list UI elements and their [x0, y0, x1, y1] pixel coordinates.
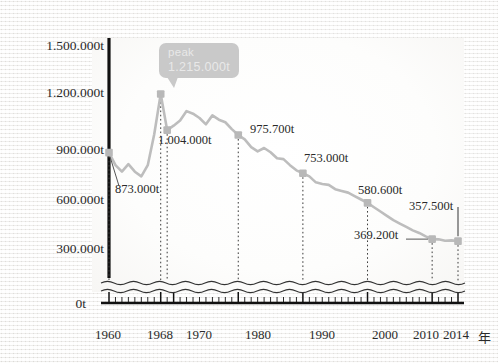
axis-break-wave-lower: [101, 289, 465, 292]
x-tick-label-1968: 1968: [147, 327, 173, 343]
data-marker-1968[interactable]: [157, 90, 165, 98]
axis-break-wave-upper: [101, 281, 465, 284]
peak-tooltip-label: peak: [168, 46, 230, 60]
x-tick-label-1970: 1970: [186, 327, 212, 343]
y-tick-label-0: 0t: [22, 296, 86, 312]
data-label-2010: 369.200t: [354, 228, 398, 243]
data-label-1960: 873.000t: [115, 182, 159, 197]
data-marker-2000[interactable]: [364, 199, 372, 207]
peak-tooltip-pointer: [167, 77, 178, 88]
x-axis-unit-label: 年: [478, 327, 491, 346]
data-marker-1990[interactable]: [299, 169, 307, 177]
data-label-1980: 975.700t: [250, 122, 294, 137]
x-tick-label-1980: 1980: [245, 327, 271, 343]
data-label-1990: 753.000t: [304, 151, 348, 166]
data-label-1969: 1.004.000t: [158, 133, 211, 148]
data-series-line: [109, 94, 458, 241]
data-marker-2010[interactable]: [428, 235, 436, 243]
data-label-2000: 580.600t: [358, 183, 402, 198]
x-tick-label-2000: 2000: [372, 327, 398, 343]
data-marker-2014[interactable]: [454, 237, 462, 245]
data-label-2014: 357.500t: [409, 199, 453, 214]
y-tick-label-300000: 300.000t: [22, 241, 104, 257]
x-tick-label-2010: 2010: [413, 327, 439, 343]
peak-tooltip: peak 1.215.000t: [159, 43, 239, 78]
x-tick-label-1960: 1960: [95, 327, 121, 343]
y-tick-label-900000: 900.000t: [22, 142, 104, 158]
data-marker-1980[interactable]: [234, 131, 242, 139]
y-tick-label-600000: 600.000t: [22, 192, 104, 208]
peak-tooltip-value: 1.215.000t: [168, 60, 230, 75]
x-tick-label-1990: 1990: [309, 327, 335, 343]
x-tick-label-2014: 2014: [443, 327, 469, 343]
data-marker-1960[interactable]: [105, 149, 113, 157]
y-tick-label-1200000: 1.200.000t: [22, 85, 104, 101]
y-tick-label-1500000: 1.500.000t: [22, 38, 104, 54]
